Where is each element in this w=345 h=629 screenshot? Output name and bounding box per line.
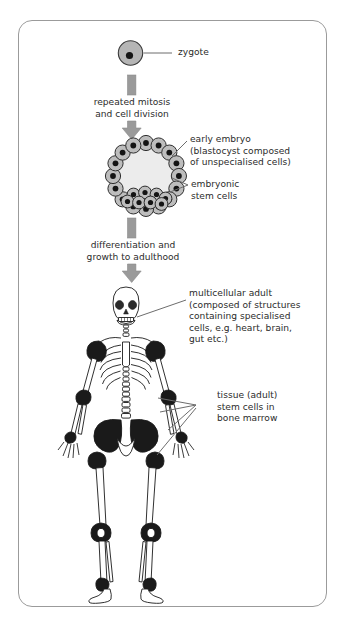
elbow-marrow-right — [161, 390, 176, 405]
femur-left — [96, 468, 106, 527]
elbow-marrow-left — [76, 390, 91, 405]
clavicle-left — [100, 338, 121, 343]
blastocyst — [105, 135, 186, 216]
label-tissue-stem-cells-line3: bone marrow — [217, 413, 277, 425]
arrow-shaft-2 — [128, 218, 136, 238]
hip-marrow-right — [146, 452, 164, 469]
spine — [122, 367, 131, 418]
adult-leader-line — [137, 300, 186, 317]
femur-right — [146, 468, 156, 527]
label-multicellular-adult-line5: gut etc.) — [189, 334, 228, 346]
sternum — [123, 342, 130, 367]
humerus-left — [83, 358, 97, 393]
pelvis — [94, 419, 158, 456]
tibia-left — [99, 541, 107, 583]
label-multicellular-adult-line4: cells, e.g. heart, brain, — [189, 323, 292, 335]
label-early-embryo-line1: early embryo — [190, 134, 251, 146]
label-multicellular-adult-line1: multicellular adult — [189, 288, 272, 300]
label-tissue-stem-cells-line2: stem cells in — [217, 402, 274, 414]
skull — [113, 287, 139, 325]
label-differentiation-line1: differentiation and — [58, 240, 208, 252]
label-early-embryo-line2: (blastocyst composed — [190, 146, 290, 158]
clavicle-right — [131, 338, 152, 343]
arrow-shaft-1 — [128, 75, 136, 95]
label-embryonic-stem-cells-line2: stem cells — [191, 191, 237, 203]
label-tissue-stem-cells-line1: tissue (adult) — [217, 390, 277, 402]
skeleton-figure — [58, 287, 194, 603]
label-repeated-mitosis-line1: repeated mitosis — [62, 97, 202, 109]
cervical-spine — [123, 325, 129, 336]
hand-left — [58, 442, 79, 458]
label-repeated-mitosis-line2: and cell division — [62, 109, 202, 121]
label-zygote: zygote — [178, 47, 209, 59]
humerus-right — [155, 358, 169, 393]
hip-marrow-left — [88, 452, 106, 469]
tibia-right — [145, 541, 153, 583]
label-multicellular-adult-line2: (composed of structures — [189, 300, 300, 312]
label-early-embryo-line3: of unspecialised cells) — [190, 157, 291, 169]
label-multicellular-adult-line3: containing specialised — [189, 311, 291, 323]
label-embryonic-stem-cells-line1: embryonic — [191, 179, 239, 191]
diagram-graphics — [0, 0, 345, 629]
zygote-cell — [118, 41, 142, 65]
wrist-marrow-left — [65, 432, 76, 443]
diagram-canvas: zygote repeated mitosis and cell divisio… — [0, 0, 345, 629]
wrist-marrow-right — [176, 432, 187, 443]
arrow-head-1 — [122, 121, 141, 140]
hand-right — [173, 442, 194, 458]
label-differentiation-line2: growth to adulthood — [58, 252, 208, 264]
arrow-head-2 — [122, 264, 141, 283]
